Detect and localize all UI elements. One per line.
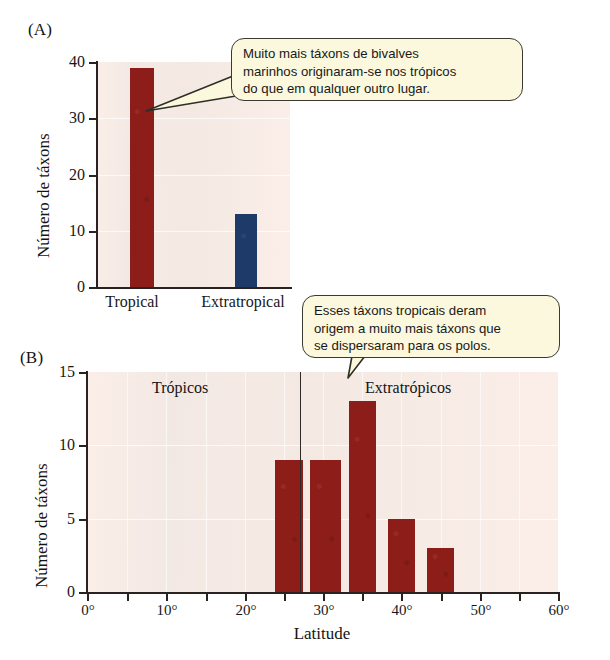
panel-b-ytick-label-10: 10: [43, 436, 75, 454]
panel-b-ytick-label-5: 5: [43, 510, 75, 528]
panel-b-xtick-mark-45: [441, 593, 443, 601]
panel-b-xtick-label-0: 0°: [63, 602, 113, 619]
panel-b-ytick-label-15: 15: [43, 363, 75, 381]
panel-b-vgrid-5: [127, 372, 128, 592]
bar-lat-30: [310, 460, 341, 592]
panel-a-ytick-label-0: 0: [53, 278, 85, 296]
panel-b-xtick-mark-25: [284, 593, 286, 601]
panel-a-ytick-mark-10: [89, 231, 97, 233]
panel-a-xtick-label-extratropical: Extratropical: [178, 293, 308, 311]
panel-a-ytick-mark-20: [89, 175, 97, 177]
figure-root: (A) Número de táxons 0 10 20 30 40 Tro: [0, 0, 610, 660]
panel-b-tropics-divider: [300, 372, 301, 592]
panel-a-letter: (A): [28, 20, 52, 40]
panel-a-callout-line-2: marinhos originaram-se nos trópicos: [243, 63, 512, 81]
panel-b-xtick-mark-10: [166, 593, 168, 601]
panel-b: (B) Número de táxons: [0, 330, 610, 660]
panel-b-ytick-label-0: 0: [43, 583, 75, 601]
panel-b-xtick-label-10: 10°: [142, 602, 192, 619]
bar-extratropical: [235, 214, 257, 287]
panel-b-xtick-mark-35: [362, 593, 364, 601]
panel-a-ytick-label-40: 40: [53, 53, 85, 71]
panel-b-callout: Esses táxons tropicais deram origem a mu…: [302, 295, 560, 358]
panel-b-vgrid-55: [519, 372, 520, 592]
panel-b-xtick-label-60: 60°: [534, 602, 584, 619]
panel-a-gridline-10: [98, 231, 290, 232]
panel-b-vgrid-15: [206, 372, 207, 592]
panel-a-xtick-label-tropical: Tropical: [82, 293, 182, 311]
panel-b-xtick-mark-40: [401, 593, 403, 601]
panel-b-xtick-label-50: 50°: [456, 602, 506, 619]
panel-a: (A) Número de táxons 0 10 20 30 40 Tro: [0, 0, 610, 330]
panel-b-letter: (B): [20, 348, 43, 368]
panel-b-xtick-mark-0: [87, 593, 89, 601]
bar-lat-35: [349, 401, 376, 592]
panel-a-gridline-20: [98, 175, 290, 176]
panel-a-ytick-mark-30: [89, 118, 97, 120]
panel-b-callout-line-2: origem a muito mais táxons que: [314, 320, 549, 338]
panel-a-ytick-mark-40: [89, 62, 97, 64]
panel-a-callout: Muito mais táxons de bivalves marinhos o…: [231, 38, 523, 101]
panel-b-xtick-mark-50: [480, 593, 482, 601]
panel-b-xtick-mark-30: [323, 593, 325, 601]
panel-a-ytick-mark-0: [89, 287, 97, 289]
panel-b-callout-line-1: Esses táxons tropicais deram: [314, 302, 549, 320]
panel-b-xtick-mark-55: [519, 593, 521, 601]
panel-b-ytick-mark-15: [79, 372, 87, 374]
bar-lat-40: [388, 519, 415, 592]
panel-a-callout-line-3: do que em qualquer outro lugar.: [243, 80, 512, 98]
panel-b-ytick-mark-10: [79, 445, 87, 447]
panel-b-xtick-mark-15: [206, 593, 208, 601]
panel-b-plot-area: [88, 372, 558, 592]
bar-lat-25: [275, 460, 302, 592]
panel-a-ytick-label-30: 30: [53, 109, 85, 127]
panel-a-y-axis-title: Número de táxons: [34, 133, 54, 258]
panel-b-ytick-mark-0: [79, 592, 87, 594]
panel-b-xtick-label-30: 30°: [299, 602, 349, 619]
bar-lat-45: [427, 548, 454, 592]
panel-a-ytick-label-10: 10: [53, 222, 85, 240]
panel-b-ytick-mark-5: [79, 519, 87, 521]
panel-b-x-axis-title: Latitude: [232, 624, 412, 644]
panel-b-xtick-label-20: 20°: [221, 602, 271, 619]
panel-b-xtick-mark-60: [558, 593, 560, 601]
panel-b-xtick-mark-20: [245, 593, 247, 601]
panel-b-xtick-label-40: 40°: [377, 602, 427, 619]
panel-a-ytick-label-20: 20: [53, 166, 85, 184]
panel-b-callout-line-3: se dispersaram para os polos.: [314, 337, 549, 355]
panel-b-vgrid-10: [166, 372, 167, 592]
panel-b-y-axis: [86, 371, 88, 593]
panel-a-x-axis: [96, 287, 292, 289]
panel-b-vgrid-50: [480, 372, 481, 592]
panel-a-callout-line-1: Muito mais táxons de bivalves: [243, 45, 512, 63]
panel-b-xtick-mark-5: [127, 593, 129, 601]
panel-b-label-tropicos: Trópicos: [152, 379, 208, 397]
panel-b-vgrid-20: [245, 372, 246, 592]
